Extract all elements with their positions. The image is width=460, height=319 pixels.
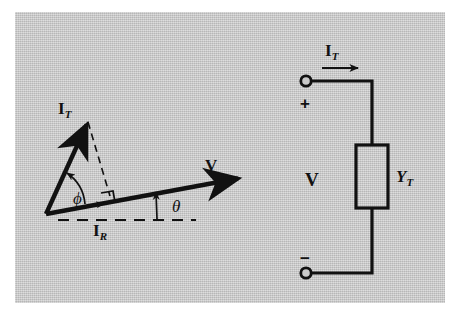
angle-label-theta: θ — [172, 198, 180, 215]
wire-bottom — [312, 208, 372, 273]
phasor-label-it: IT — [58, 100, 71, 120]
terminal-sign-positive: + — [300, 95, 310, 112]
figure-root: IT V IR ϕ θ IT V YT + − — [0, 0, 460, 319]
circuit-label-yt-main: Y — [396, 167, 406, 186]
terminal-sign-negative: − — [300, 250, 310, 267]
phasor-label-ir-main: I — [93, 221, 100, 240]
phasor-label-ir-sub: R — [100, 230, 107, 242]
phasor-label-v-main: V — [205, 156, 217, 175]
phasor-label-ir: IR — [93, 222, 107, 242]
terminal-negative — [301, 268, 311, 278]
phasor-label-it-main: I — [58, 99, 65, 118]
terminal-positive — [301, 76, 311, 86]
circuit-label-yt-sub: T — [406, 176, 413, 188]
circuit-label-yt: YT — [396, 168, 413, 188]
circuit-label-it: IT — [325, 42, 338, 62]
circuit-label-it-main: I — [325, 41, 332, 60]
circuit-label-v: V — [305, 170, 319, 189]
wire-top — [312, 81, 372, 145]
angle-arc-theta — [156, 192, 157, 219]
projection-dashed-line — [88, 122, 110, 196]
phasor-label-it-sub: T — [65, 108, 72, 120]
phasor-label-v: V — [205, 157, 217, 177]
figure-artwork — [0, 0, 460, 319]
circuit-label-it-sub: T — [332, 50, 339, 62]
angle-label-phi: ϕ — [73, 190, 82, 207]
admittance-box — [356, 145, 388, 208]
